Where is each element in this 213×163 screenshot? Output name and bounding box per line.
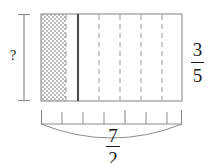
shaded-product-region <box>41 14 66 101</box>
fraction-area-model-figure: ? 3 5 7 2 <box>0 0 213 163</box>
width-tick-ruler <box>41 110 182 124</box>
height-fraction-label: 3 5 <box>182 40 213 85</box>
width-fraction-bar <box>106 146 120 147</box>
height-fraction-denominator: 5 <box>193 66 203 85</box>
width-fraction-label: 7 2 <box>96 126 130 163</box>
height-fraction-bar <box>191 62 204 63</box>
width-fraction-numerator: 7 <box>108 126 118 145</box>
unknown-height-label: ? <box>6 48 20 64</box>
height-fraction-numerator: 3 <box>193 40 203 59</box>
width-fraction-denominator: 2 <box>108 149 118 163</box>
